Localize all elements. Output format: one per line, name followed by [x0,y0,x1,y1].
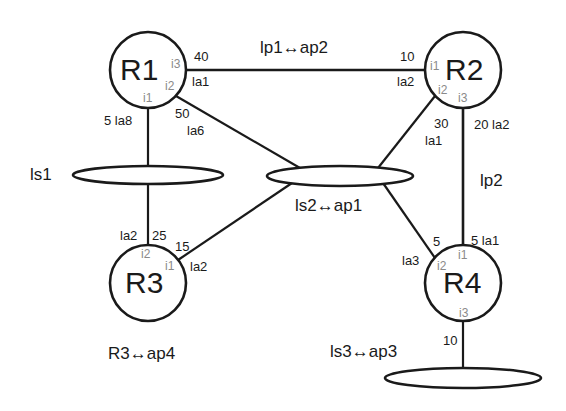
r3-i2-address: la2 [120,229,137,242]
r4-interface-i3: i3 [459,307,468,319]
r3-i1-address: la2 [190,260,207,273]
r2-i3-cost-address: 20 la2 [474,118,509,131]
r2-interface-i3: i3 [458,92,467,104]
link-r4-ls2 [383,183,435,258]
link-label-lp1: lp1↔ap2 [260,39,328,56]
r4-i3-cost: 10 [443,334,457,347]
r2-i1-address: la2 [397,75,414,88]
r2-i2-cost: 30 [434,117,448,130]
router-label-r4: R4 [443,268,481,298]
r2-i1-cost: 10 [400,50,414,63]
link-r2-ls2 [378,96,435,168]
r1-interface-i2: i2 [165,80,174,92]
router-label-r1: R1 [120,55,158,85]
r2-interface-i2: i2 [438,84,447,96]
r1-i3-cost: 40 [194,50,208,63]
r1-i2-cost: 50 [175,107,189,120]
segment-ls1 [73,166,223,184]
segment-label-ls3: ls3↔ap3 [330,343,397,360]
r2-i2-address: la1 [425,134,442,147]
segment-ls3 [385,368,541,388]
segment-label-ls1: ls1 [30,166,52,183]
router-annotation-r3: R3↔ap4 [108,345,175,362]
router-label-r2: R2 [445,55,483,85]
r1-i2-address: la6 [187,124,204,137]
link-r3-ls2 [178,183,292,260]
r3-interface-i1: i1 [165,260,174,272]
r4-i2-cost: 5 [433,235,440,248]
r1-interface-i1: i1 [143,92,152,104]
segment-ls2 [267,166,413,186]
router-label-r3: R3 [125,268,163,298]
r1-interface-i3: i3 [171,58,180,70]
r4-interface-i1: i1 [458,249,467,261]
segment-label-ls2: ls2↔ap1 [295,197,362,214]
r3-i1-cost: 15 [175,240,189,253]
r1-i1-cost-address: 5 la8 [104,114,132,127]
r4-i1-cost-address: 5 la1 [471,234,499,247]
r4-i2-address: la3 [402,254,419,267]
r3-i2-cost: 25 [152,229,166,242]
link-label-lp2: lp2 [480,172,503,189]
r1-i3-address: la1 [192,75,209,88]
r3-interface-i2: i2 [141,248,150,260]
r2-interface-i1: i1 [430,60,439,72]
r4-interface-i2: i2 [437,260,446,272]
network-diagram: R1 R2 R3 R4 i3 i2 i1 i1 i2 i3 i2 i1 i1 i… [0,0,566,411]
